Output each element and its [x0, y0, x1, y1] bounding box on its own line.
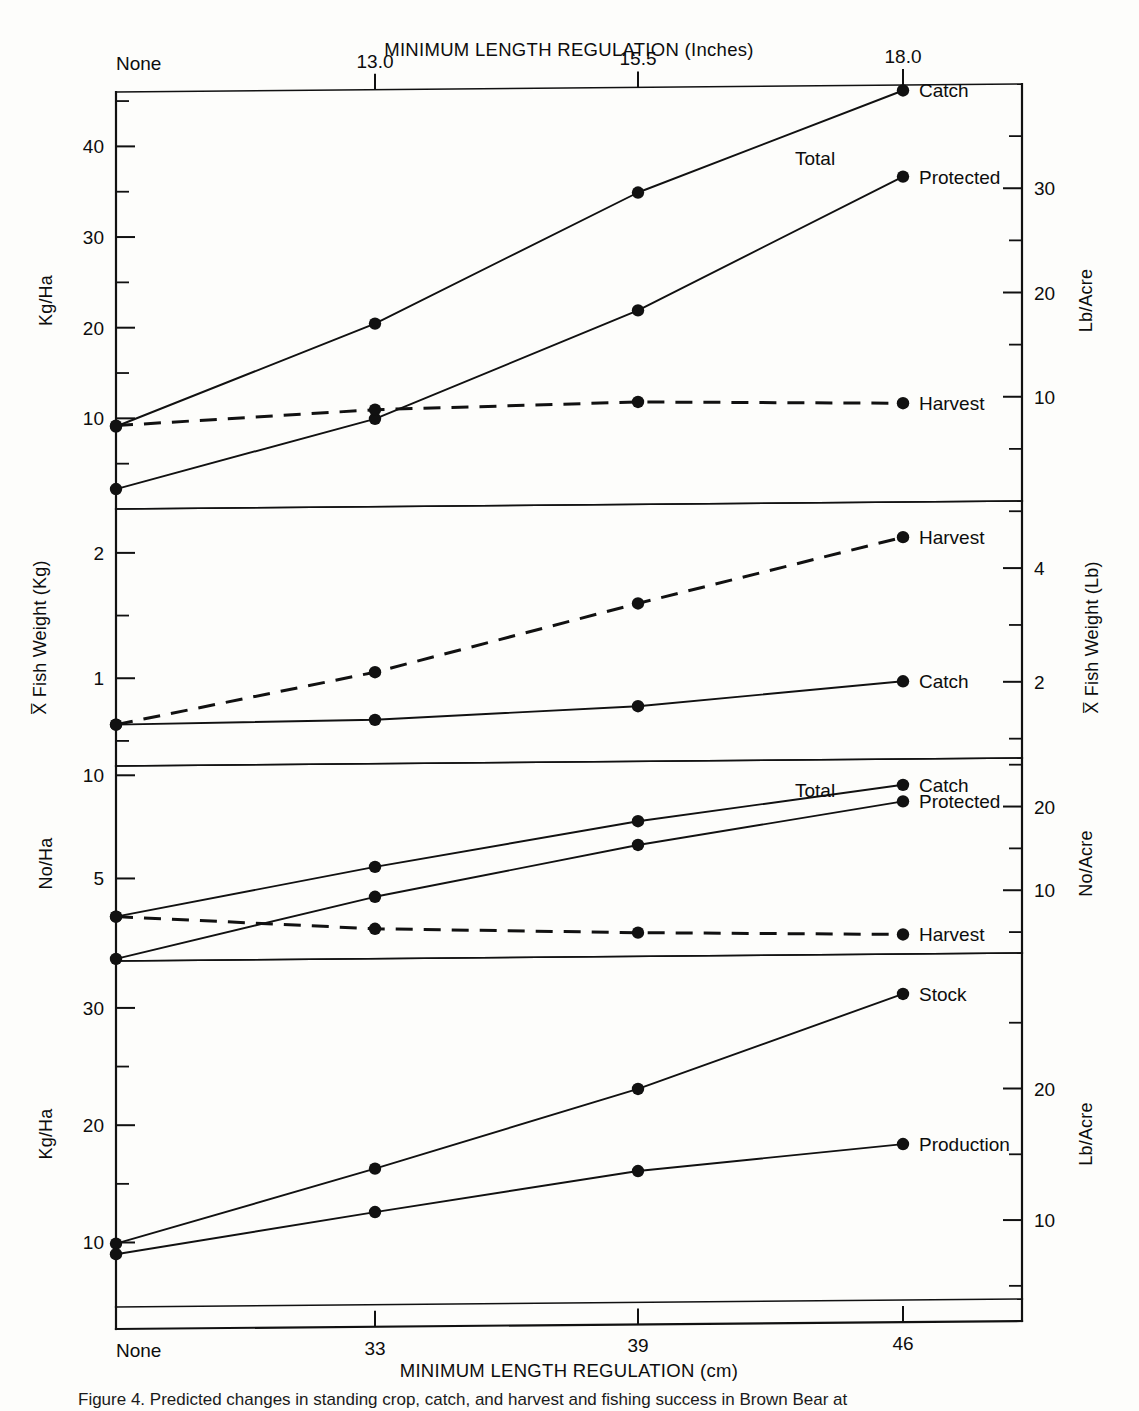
panel-1-top-rail [116, 501, 1022, 509]
panel-1-point-0-2 [632, 597, 644, 609]
panel-3-ytick-label-10: 10 [83, 1232, 104, 1253]
panel-1-ytick-r-label-2: 2 [1034, 672, 1045, 693]
panel-3-ytick-label-20: 20 [83, 1115, 104, 1136]
top-tick-label-2: 15.5 [620, 48, 657, 69]
panel-0-total-annotation: Total [795, 148, 835, 169]
panel-3-point-1-1 [369, 1206, 381, 1218]
panel-2-series-protected [116, 801, 903, 959]
panel-3-ylabel-right: Lb/Acre [1076, 1102, 1096, 1165]
panel-1-point-1-1 [369, 714, 381, 726]
panel-1-label-catch: Catch [919, 671, 969, 692]
bottom-tick-label-1: 33 [364, 1338, 385, 1359]
panel-1-series-catch [116, 681, 903, 724]
multi-panel-line-chart: 10203040102030Kg/HaLb/AcreCatchProtected… [0, 0, 1139, 1411]
panel-2-top-rail [116, 758, 1022, 766]
panel-2-point-2-1 [369, 923, 381, 935]
panel-0-ytick-r-label-20: 20 [1034, 283, 1055, 304]
bottom-axis-title: MINIMUM LENGTH REGULATION (cm) [400, 1360, 739, 1381]
panel-0-ytick-label-10: 10 [83, 408, 104, 429]
panel-3-ytick-r-label-10: 10 [1034, 1210, 1055, 1231]
panel-0-point-0-1 [369, 317, 381, 329]
panel-3-series-production [116, 1144, 903, 1254]
panel-3-point-1-2 [632, 1165, 644, 1177]
panel-3-top-rail [116, 953, 1022, 961]
top-tick-label-3: 18.0 [885, 46, 922, 67]
panel-2-ytick-r-label-20: 20 [1034, 797, 1055, 818]
panel-2-point-1-3 [897, 795, 909, 807]
bottom-tick-label-2: 39 [627, 1335, 648, 1356]
panel-2-ytick-label-5: 5 [93, 868, 104, 889]
panel-1-point-0-1 [369, 666, 381, 678]
panel-3-point-0-1 [369, 1162, 381, 1174]
panel-0-top-rail [116, 84, 1022, 92]
panel-2-point-1-1 [369, 891, 381, 903]
top-tick-label-0: None [116, 53, 161, 74]
panel-0-ytick-label-30: 30 [83, 227, 104, 248]
panel-3-ylabel-left: Kg/Ha [36, 1108, 56, 1160]
panel-3-ytick-r-label-20: 20 [1034, 1079, 1055, 1100]
panel-0-point-1-2 [632, 304, 644, 316]
panel-0-point-2-3 [897, 397, 909, 409]
panel-0-ytick-r-label-30: 30 [1034, 178, 1055, 199]
bottom-tick-label-3: 46 [892, 1333, 913, 1354]
panel-1-series-harvest [116, 537, 903, 724]
panel-1-label-harvest: Harvest [919, 527, 985, 548]
panel-1-ytick-label-1: 1 [93, 668, 104, 689]
figure-caption-clipped: Figure 4. Predicted changes in standing … [0, 1392, 1139, 1411]
panel-2-label-harvest: Harvest [919, 924, 985, 945]
panel-0-label-catch: Catch [919, 80, 969, 101]
panel-0-point-2-1 [369, 404, 381, 416]
panel-2-series-harvest [116, 917, 903, 935]
panel-0-point-2-2 [632, 396, 644, 408]
bottom-axis-line [116, 1321, 1022, 1329]
figure-page: 10203040102030Kg/HaLb/AcreCatchProtected… [0, 0, 1139, 1411]
panel-3-ytick-label-30: 30 [83, 998, 104, 1019]
panel-1-ylabel-right: X̅ Fish Weight (Lb) [1082, 561, 1102, 713]
panel-0-series-total-catch [116, 91, 903, 427]
top-tick-label-1: 13.0 [357, 51, 394, 72]
panel-2-ytick-label-10: 10 [83, 765, 104, 786]
panel-2-ytick-r-label-10: 10 [1034, 880, 1055, 901]
panel-1-ylabel-left: X̅ Fish Weight (Kg) [30, 560, 50, 714]
panel-0-point-1-3 [897, 170, 909, 182]
panel-0-ytick-label-40: 40 [83, 136, 104, 157]
panel-2-point-2-0 [110, 910, 122, 922]
panel-2-point-1-2 [632, 839, 644, 851]
panel-0-ylabel-right: Lb/Acre [1076, 269, 1096, 332]
panel-0-point-0-2 [632, 186, 644, 198]
panel-0-ytick-r-label-10: 10 [1034, 387, 1055, 408]
panel-0-ytick-label-20: 20 [83, 318, 104, 339]
panel-0-point-0-3 [897, 84, 909, 96]
panel-2-point-0-3 [897, 779, 909, 791]
panel-2-point-2-2 [632, 926, 644, 938]
panel-1-point-1-3 [897, 675, 909, 687]
panel-3-bottom-rail [116, 1299, 1022, 1307]
panel-1-ytick-label-2: 2 [93, 543, 104, 564]
panel-0-label-harvest: Harvest [919, 393, 985, 414]
panel-1-point-1-2 [632, 700, 644, 712]
panel-0-point-2-0 [110, 419, 122, 431]
panel-3-label-production: Production [919, 1134, 1010, 1155]
panel-2-series-total-catch [116, 785, 903, 917]
panel-3-label-stock: Stock [919, 984, 967, 1005]
bottom-tick-label-0: None [116, 1340, 161, 1361]
panel-0-ylabel-left: Kg/Ha [36, 274, 56, 326]
top-axis-title: MINIMUM LENGTH REGULATION (Inches) [384, 39, 754, 60]
panel-1-point-0-3 [897, 531, 909, 543]
panel-3-point-1-3 [897, 1138, 909, 1150]
panel-0-point-1-0 [110, 483, 122, 495]
panel-1-ytick-r-label-4: 4 [1034, 558, 1045, 579]
panel-0-series-protected [116, 177, 903, 490]
panel-2-label-protected: Protected [919, 791, 1000, 812]
panel-2-ylabel-right: No/Acre [1076, 830, 1096, 896]
panel-2-ylabel-left: No/Ha [36, 837, 56, 890]
panel-2-point-2-3 [897, 928, 909, 940]
panel-0-label-protected: Protected [919, 167, 1000, 188]
panel-2-point-0-1 [369, 861, 381, 873]
panel-3-series-stock [116, 994, 903, 1244]
panel-3-point-0-0 [110, 1237, 122, 1249]
panel-1-point-1-0 [110, 718, 122, 730]
panel-3-point-0-3 [897, 988, 909, 1000]
panel-3-point-0-2 [632, 1083, 644, 1095]
figure-caption-text: Figure 4. Predicted changes in standing … [78, 1392, 847, 1410]
